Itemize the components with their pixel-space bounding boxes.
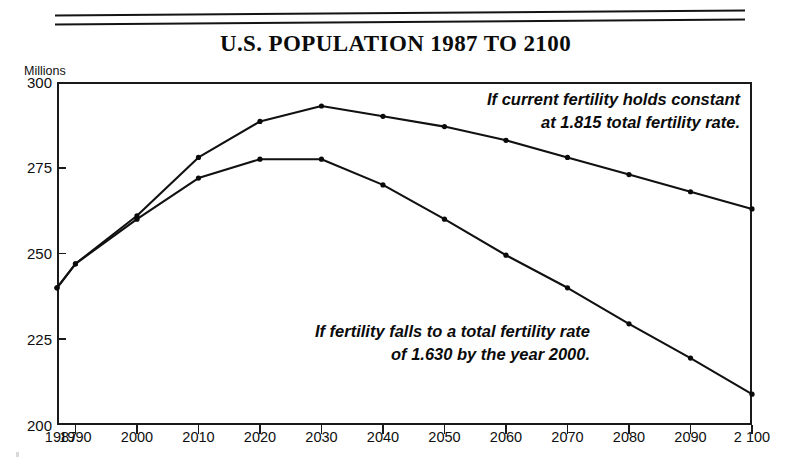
plot-edge-top xyxy=(57,82,752,84)
page-title: U.S. POPULATION 1987 TO 2100 xyxy=(0,31,791,57)
plot-edge-bottom xyxy=(57,423,752,425)
x-axis-tick-mark xyxy=(628,425,630,434)
plot-edge-right xyxy=(750,82,752,425)
x-axis-tick-mark xyxy=(444,425,446,434)
y-axis-tick-label: 275 xyxy=(18,160,52,175)
x-axis-tick-mark xyxy=(75,425,77,434)
y-axis-tick-mark xyxy=(57,167,66,169)
x-axis-tick-mark xyxy=(198,425,200,434)
top-rule-lower xyxy=(55,18,745,25)
annotation-high-fertility-line1: If current fertility holds constant xyxy=(440,88,740,111)
annotation-low-fertility-line2: of 1.630 by the year 2000. xyxy=(228,343,590,366)
x-axis-tick-labels: 1987199020002010202020302040205020602070… xyxy=(0,429,791,451)
annotation-high-fertility: If current fertility holds constant at 1… xyxy=(440,88,740,134)
x-axis-tick-mark xyxy=(505,425,507,434)
x-axis-tick-mark xyxy=(382,425,384,434)
x-axis-tick-mark xyxy=(567,425,569,434)
y-axis-tick-mark xyxy=(57,253,66,255)
annotation-low-fertility: If fertility falls to a total fertility … xyxy=(228,320,590,366)
x-axis-tick-mark xyxy=(321,425,323,434)
x-axis-tick-mark xyxy=(259,425,261,434)
y-axis-tick-mark xyxy=(57,338,66,340)
annotation-low-fertility-line1: If fertility falls to a total fertility … xyxy=(228,320,590,343)
y-axis-tick-label: 225 xyxy=(18,332,52,347)
x-axis-tick-mark xyxy=(751,425,753,434)
x-axis-tick-mark xyxy=(690,425,692,434)
scan-artifact xyxy=(16,452,19,457)
annotation-high-fertility-line2: at 1.815 total fertility rate. xyxy=(440,111,740,134)
population-chart-figure: U.S. POPULATION 1987 TO 2100 Millions 30… xyxy=(0,0,791,471)
top-rule-upper xyxy=(55,9,745,16)
y-axis-tick-labels: 300275250225200 xyxy=(12,82,52,425)
y-axis-tick-label: 300 xyxy=(18,75,52,90)
x-axis-tick-mark xyxy=(136,425,138,434)
y-axis-tick-label: 250 xyxy=(18,246,52,261)
